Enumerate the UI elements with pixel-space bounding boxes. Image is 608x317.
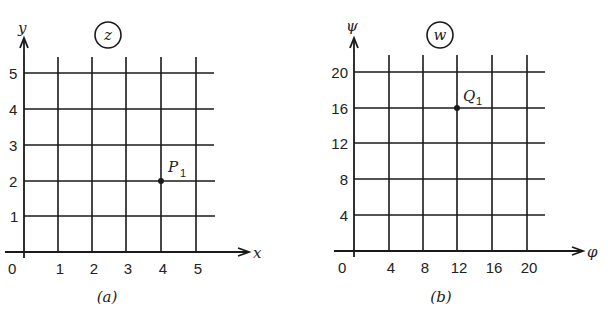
phi-axis-label: φ [587, 243, 598, 261]
point-p1-subscript: 1 [180, 167, 186, 179]
caption-a: (a) [97, 288, 118, 306]
x-tick: 8 [421, 259, 429, 276]
x-tick: 4 [159, 260, 167, 277]
y-tick: 20 [331, 64, 348, 81]
point-p1-label: P [167, 158, 179, 176]
vertical-grid-lines [389, 55, 527, 251]
x-tick: 3 [124, 260, 132, 277]
point-p1 [158, 178, 164, 184]
x-tick: 4 [387, 259, 395, 276]
psi-axis-label: ψ [346, 17, 358, 35]
y-tick: 12 [331, 135, 348, 152]
point-q1-label: Q [463, 87, 475, 105]
figure: y x z 5 4 3 2 1 0 1 2 3 4 5 P 1 (a) [0, 0, 608, 317]
point-q1-subscript: 1 [476, 95, 482, 107]
y-axis-label: y [17, 19, 27, 37]
x-tick: 16 [486, 259, 503, 276]
y-tick: 16 [331, 100, 348, 117]
x-tick: 1 [56, 260, 64, 277]
panel-a: y x z 5 4 3 2 1 0 1 2 3 4 5 P 1 (a) [5, 19, 262, 306]
vertical-grid-lines [58, 57, 196, 252]
horizontal-grid-lines [354, 72, 545, 215]
y-tick: 3 [9, 137, 17, 154]
plane-label: z [103, 26, 112, 44]
plane-label: w [434, 26, 447, 44]
x-tick: 20 [521, 259, 538, 276]
origin-label: 0 [338, 259, 346, 276]
origin-label: 0 [8, 260, 16, 277]
x-tick: 12 [451, 259, 468, 276]
y-tick: 8 [340, 171, 348, 188]
x-tick: 2 [90, 260, 98, 277]
x-tick: 5 [194, 260, 202, 277]
panel-b: ψ φ w 20 16 12 8 4 0 4 8 12 16 20 Q 1 (b… [331, 17, 598, 306]
horizontal-grid-lines [24, 73, 215, 216]
y-tick: 2 [9, 173, 17, 190]
point-q1 [454, 105, 460, 111]
y-tick: 1 [10, 208, 18, 225]
y-tick: 4 [9, 101, 17, 118]
caption-b: (b) [430, 288, 451, 306]
x-axis-label: x [253, 244, 262, 262]
y-tick: 5 [9, 65, 17, 82]
y-tick: 4 [340, 207, 348, 224]
